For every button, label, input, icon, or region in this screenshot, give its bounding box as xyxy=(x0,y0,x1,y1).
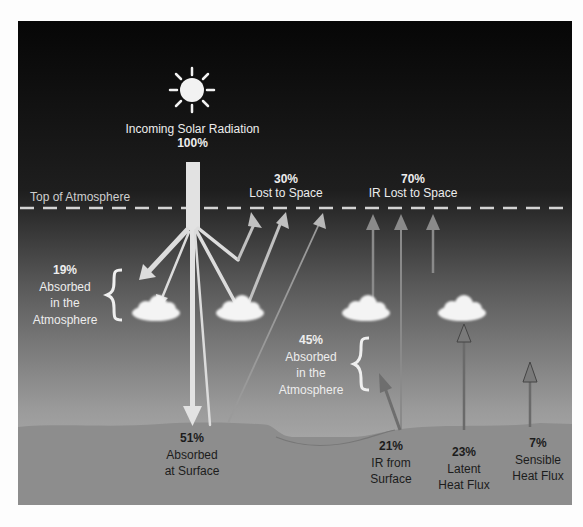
absorbed-atmosphere-45-line2: in the xyxy=(270,365,352,382)
incoming-solar-title: Incoming Solar Radiation xyxy=(110,122,275,136)
latent-heat-line2: Heat Flux xyxy=(428,477,500,494)
absorbed-surface-label: 51% Absorbed at Surface xyxy=(150,430,234,480)
latent-heat-line1: Latent xyxy=(428,461,500,478)
lost-to-space-value: 30% xyxy=(236,172,336,186)
top-of-atmosphere-text: Top of Atmosphere xyxy=(30,190,130,204)
sensible-heat-line1: Sensible xyxy=(502,452,574,469)
incoming-solar-value: 100% xyxy=(110,136,275,150)
ir-lost-to-space-label: 70% IR Lost to Space xyxy=(358,172,468,201)
ir-from-surface-line2: Surface xyxy=(356,471,426,488)
absorbed-atmosphere-19-value: 19% xyxy=(24,262,106,279)
ir-lost-to-space-value: 70% xyxy=(358,172,468,186)
absorbed-surface-value: 51% xyxy=(150,430,234,447)
top-of-atmosphere-label: Top of Atmosphere xyxy=(30,190,150,204)
absorbed-atmosphere-19-line1: Absorbed xyxy=(24,279,106,296)
lost-to-space-text: Lost to Space xyxy=(236,186,336,200)
surface-beam xyxy=(190,228,195,408)
sensible-heat-label: 7% Sensible Heat Flux xyxy=(502,435,574,485)
sensible-heat-line2: Heat Flux xyxy=(502,468,574,485)
absorbed-surface-line1: Absorbed xyxy=(150,447,234,464)
absorbed-atmosphere-45-value: 45% xyxy=(270,332,352,349)
absorbed-atmosphere-19-line2: in the xyxy=(24,295,106,312)
absorbed-atmosphere-45-line3: Atmosphere xyxy=(270,382,352,399)
ir-from-surface-value: 21% xyxy=(356,438,426,455)
lost-to-space-label: 30% Lost to Space xyxy=(236,172,336,201)
incoming-solar-beam xyxy=(186,162,200,230)
latent-heat-label: 23% Latent Heat Flux xyxy=(428,444,500,494)
ir-lost-to-space-text: IR Lost to Space xyxy=(358,186,468,200)
absorbed-atmosphere-19-label: 19% Absorbed in the Atmosphere xyxy=(24,262,106,328)
ir-from-surface-line1: IR from xyxy=(356,455,426,472)
absorbed-surface-line2: at Surface xyxy=(150,463,234,480)
latent-heat-value: 23% xyxy=(428,444,500,461)
absorbed-atmosphere-19-line3: Atmosphere xyxy=(24,312,106,329)
absorbed-atmosphere-45-label: 45% Absorbed in the Atmosphere xyxy=(270,332,352,398)
absorbed-atmosphere-45-line1: Absorbed xyxy=(270,349,352,366)
sensible-heat-value: 7% xyxy=(502,435,574,452)
ir-from-surface-label: 21% IR from Surface xyxy=(356,438,426,488)
sun-icon xyxy=(170,68,214,112)
incoming-solar-label: Incoming Solar Radiation 100% xyxy=(110,122,275,151)
